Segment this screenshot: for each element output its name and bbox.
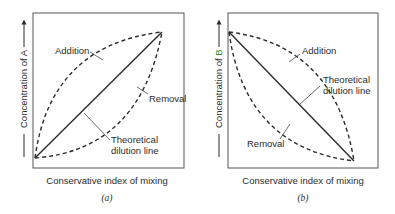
theoretical-label-line2: dilution line (323, 85, 371, 96)
theoretical-label-line2: dilution line (111, 145, 159, 156)
removal-label: Removal (149, 93, 187, 104)
y-axis-label: Concentration of B (213, 49, 224, 128)
panel-a: Concentration of A Addition Removal Theo… (18, 13, 187, 204)
y-axis-label: Concentration of A (18, 49, 29, 128)
removal-leader (137, 87, 148, 94)
theoretical-label-line1: Theoretical (111, 134, 158, 145)
theoretical-label-line1: Theoretical (323, 74, 370, 85)
panel-caption: (b) (297, 193, 308, 204)
removal-label: Removal (247, 138, 285, 149)
mixing-diagram: Concentration of A Addition Removal Theo… (0, 0, 395, 214)
addition-label: Addition (55, 45, 89, 56)
x-axis-label: Conservative index of mixing (46, 175, 167, 186)
theoretical-leader (299, 86, 320, 105)
theoretical-leader (84, 113, 110, 140)
addition-label: Addition (302, 45, 336, 56)
panel-b: Concentration of B Addition Theoretical … (213, 13, 378, 204)
panel-caption: (a) (101, 193, 112, 204)
x-axis-label: Conservative index of mixing (242, 175, 363, 186)
